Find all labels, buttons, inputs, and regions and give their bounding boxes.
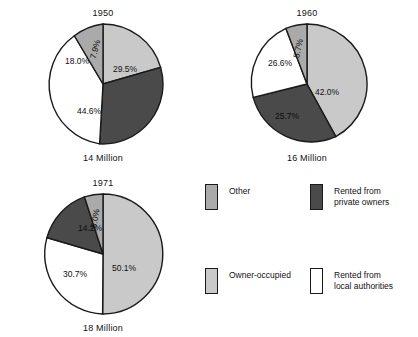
legend-label-other: Other	[229, 184, 250, 197]
legend-label-owner-occupied: Owner-occupied	[229, 268, 291, 281]
pie-svg-1950: 29.5% 44.6% 18.0% 7.9%	[41, 22, 165, 146]
slice-label-rented-local: 30.7%	[63, 269, 88, 279]
legend-swatch-other	[205, 184, 218, 210]
pie-caption-1971: 18 Million	[8, 323, 198, 333]
pie-caption-1960: 16 Million	[212, 153, 402, 163]
legend: Other Rented from private owners Owner-o…	[205, 184, 418, 309]
slice-label-owner-occupied: 50.1%	[112, 263, 137, 273]
pie-caption-1950: 14 Million	[8, 153, 198, 163]
legend-swatch-rented-private	[310, 184, 323, 210]
pie-svg-1971: 50.1% 30.7% 14.2% 5.0%	[41, 192, 165, 316]
pie-title-1960: 1960	[212, 8, 402, 18]
slice-owner-occupied	[103, 194, 163, 314]
pie-title-1971: 1971	[8, 178, 198, 188]
pie-title-1950: 1950	[8, 8, 198, 18]
legend-item-other: Other	[205, 184, 250, 210]
pie-chart-1950: 1950 29.5% 44.6% 18.0% 7.9% 14 Million	[8, 8, 198, 163]
legend-label-rented-local: Rented from local authorities	[334, 268, 393, 292]
slice-label-owner-occupied: 42.0%	[315, 87, 340, 97]
slice-label-rented-local: 18.0%	[65, 56, 90, 66]
legend-item-rented-local: Rented from local authorities	[310, 268, 393, 294]
legend-label-rented-private: Rented from private owners	[334, 184, 389, 208]
pie-svg-1960: 42.0% 25.7% 26.6% 5.7%	[245, 22, 369, 146]
pie-chart-1971: 1971 50.1% 30.7% 14.2% 5.0% 18 Million	[8, 178, 198, 333]
legend-swatch-owner-occupied	[205, 268, 218, 294]
slice-label-rented-private: 25.7%	[275, 111, 300, 121]
legend-swatch-rented-local	[310, 268, 323, 294]
legend-item-owner-occupied: Owner-occupied	[205, 268, 291, 294]
legend-item-rented-private: Rented from private owners	[310, 184, 389, 210]
pie-chart-1960: 1960 42.0% 25.7% 26.6% 5.7% 16 Million	[212, 8, 402, 163]
slice-label-rented-private: 44.6%	[77, 106, 102, 116]
slice-label-owner-occupied: 29.5%	[113, 64, 138, 74]
slice-label-rented-local: 26.6%	[268, 58, 293, 68]
